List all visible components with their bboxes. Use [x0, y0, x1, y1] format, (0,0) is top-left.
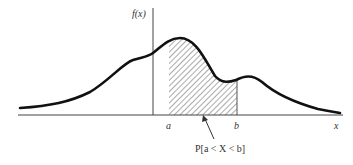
y-axis-label: f(x) [132, 8, 147, 20]
interval-start-label: a [166, 120, 171, 131]
probability-label: P[a < X < b] [195, 143, 245, 154]
interval-end-label: b [234, 120, 239, 131]
x-axis-label: x [333, 120, 339, 131]
arrow-head-icon [202, 115, 208, 122]
density-diagram: f(x) a b x P[a < X < b] [0, 0, 353, 165]
pointer-arrow [205, 119, 214, 139]
